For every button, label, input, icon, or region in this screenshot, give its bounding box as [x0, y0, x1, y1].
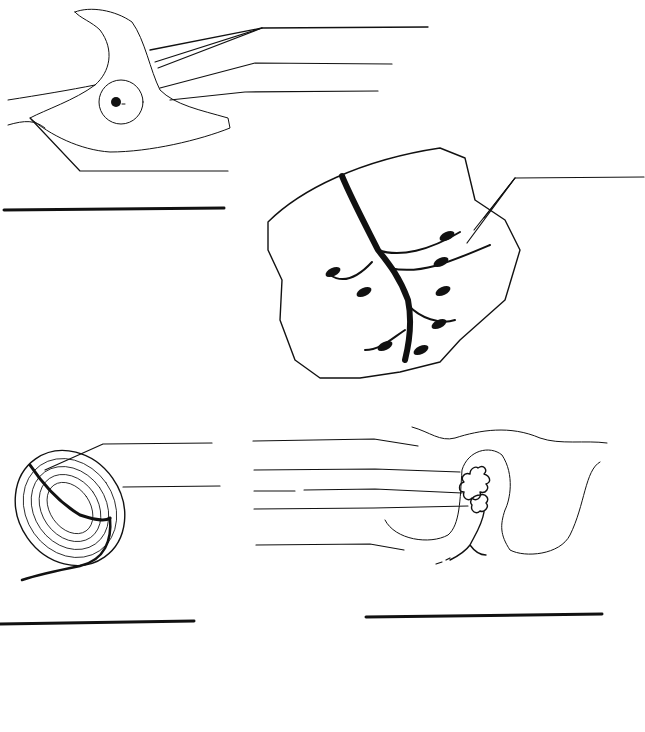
diagram-2-cardiac-muscle: [268, 148, 644, 378]
worksheet-drawings: [0, 0, 645, 732]
labeling-worksheet: [0, 0, 645, 732]
diagram-4-nerve-ending: [253, 427, 607, 617]
diagram-1-cell-matrix: [4, 9, 428, 210]
diagram-3-corpuscle: [0, 429, 220, 624]
